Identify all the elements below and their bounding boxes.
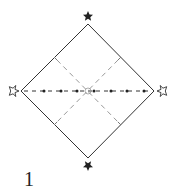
hollow-star-icon-right	[157, 86, 167, 97]
filled-star-icon-bottom	[83, 161, 93, 171]
hollow-star-icon-left	[9, 86, 19, 97]
step-number: 1	[24, 168, 34, 191]
filled-star-icon-top	[83, 11, 93, 21]
origami-diagram	[0, 0, 173, 194]
